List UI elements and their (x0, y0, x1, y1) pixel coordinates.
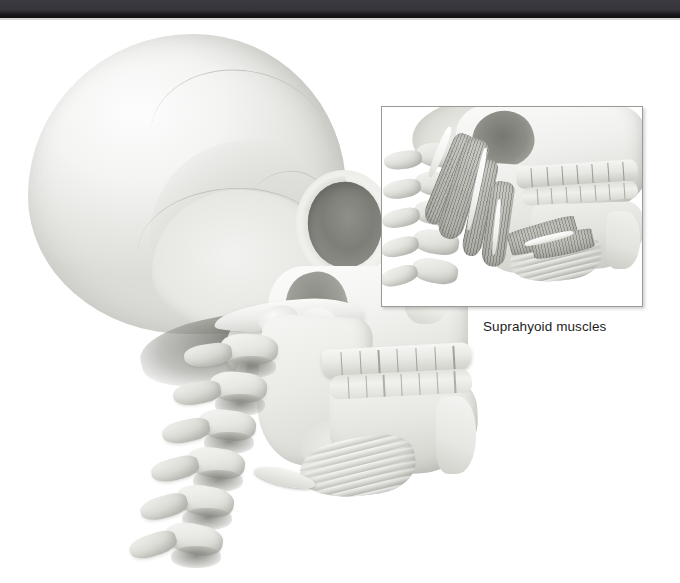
tooth-divider (418, 373, 420, 395)
tooth-divider (551, 188, 553, 204)
tooth-divider (415, 348, 418, 374)
tooth-divider (436, 372, 438, 394)
tooth-divider (536, 189, 538, 205)
mental-protuberance (436, 396, 476, 474)
figure-page: Suprahyoid muscles (0, 0, 680, 583)
inset-spinous-process (381, 262, 420, 290)
tooth-divider (454, 371, 456, 393)
inset-mental-protuberance (606, 211, 640, 269)
scan-edge-bar (0, 0, 680, 18)
tooth-divider (365, 376, 367, 398)
suprahyoid-muscles-inset (381, 106, 643, 307)
tooth-divider (580, 186, 582, 202)
tooth-divider (561, 166, 564, 186)
tooth-divider (383, 375, 385, 397)
inset-spinous-process (383, 148, 423, 171)
tooth-divider (608, 184, 610, 200)
intervertebral-shadow (171, 546, 221, 568)
tooth-divider (622, 162, 625, 182)
tooth-divider (400, 374, 402, 396)
inset-vertebral-body (410, 255, 459, 287)
inset-caption: Suprahyoid muscles (483, 319, 606, 334)
tooth-divider (623, 183, 625, 199)
tooth-divider (531, 168, 534, 188)
tooth-divider (607, 163, 610, 183)
skull-lateral-illustration: Suprahyoid muscles (0, 20, 680, 583)
inset-spinous-process (382, 177, 423, 201)
inset-canvas (382, 107, 642, 306)
tooth-divider (546, 167, 549, 187)
tooth-divider (592, 164, 595, 184)
tooth-divider (565, 187, 567, 203)
tooth-divider (594, 185, 596, 201)
tooth-divider (347, 377, 349, 399)
tooth-divider (453, 346, 456, 372)
inset-spinous-process (381, 205, 421, 231)
tooth-divider (434, 347, 437, 373)
tooth-divider (576, 165, 579, 185)
inset-spinous-process (381, 234, 421, 261)
